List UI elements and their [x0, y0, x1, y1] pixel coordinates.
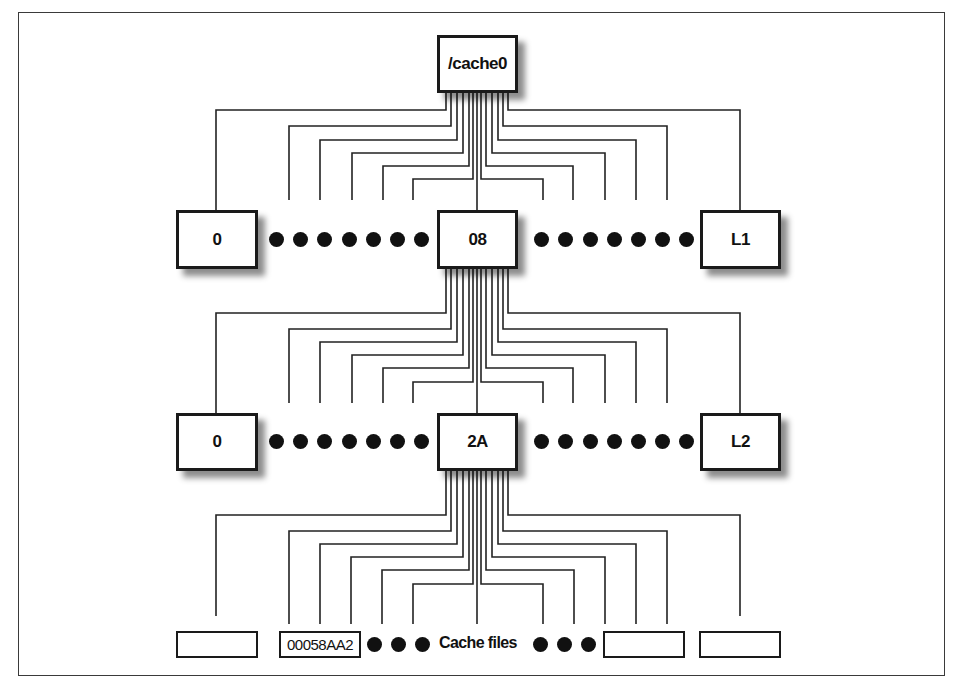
cache-file-box-named: 00058AA2	[279, 631, 361, 658]
level1-middle-node: 08	[437, 210, 518, 269]
level2-last-node: L2	[700, 413, 781, 471]
root-directory-node: /cache0	[437, 35, 518, 93]
level2-middle-node: 2A	[437, 413, 518, 471]
level2-middle-label: 2A	[467, 432, 488, 452]
cache-files-caption: Cache files	[439, 634, 517, 652]
cache-file-box-last	[699, 631, 781, 658]
level2-first-node: 0	[176, 413, 258, 471]
cache-file-box-first	[176, 631, 258, 658]
level1-last-node: L1	[700, 210, 781, 269]
cache-file-box-third	[603, 631, 685, 658]
cache-file-name: 00058AA2	[287, 636, 353, 653]
connector-lines	[0, 0, 961, 688]
level1-first-label: 0	[213, 230, 222, 250]
level2-last-label: L2	[731, 432, 750, 452]
level2-first-label: 0	[213, 432, 222, 452]
root-directory-label: /cache0	[448, 54, 507, 74]
level1-middle-label: 08	[469, 230, 487, 250]
level1-last-label: L1	[731, 230, 750, 250]
level1-first-node: 0	[176, 210, 258, 269]
